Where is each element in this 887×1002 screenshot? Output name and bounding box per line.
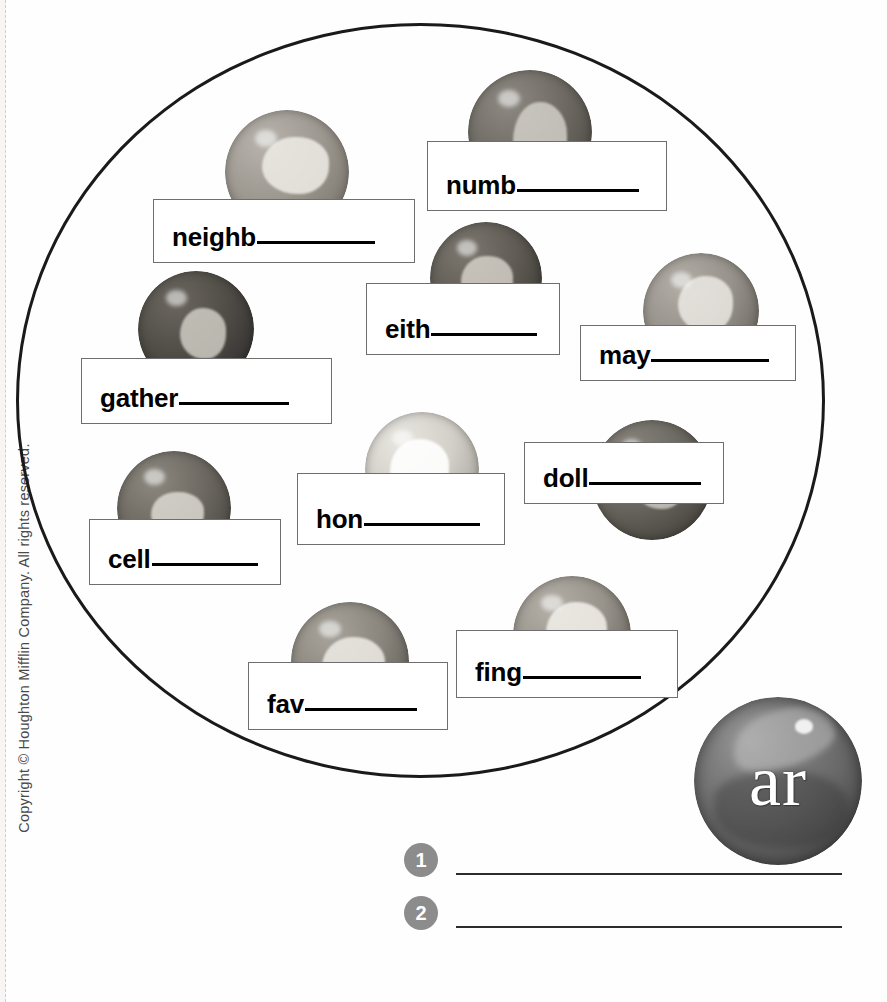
word-box-inner: cell [90,544,258,584]
word-box-cell[interactable]: cell [89,519,281,585]
answer-write-line[interactable] [456,926,842,928]
word-blank-line[interactable] [589,482,701,485]
word-box-hon[interactable]: hon [297,473,505,545]
word-stem: cell [108,544,151,575]
answer-write-line[interactable] [456,873,842,875]
word-blank-line[interactable] [152,563,258,566]
word-box-fav[interactable]: fav [248,662,448,730]
answer-number-badge: 2 [404,896,438,930]
word-box-doll[interactable]: doll [524,442,724,504]
word-box-inner: doll [525,463,701,503]
word-blank-line[interactable] [257,241,375,244]
word-box-inner: fing [457,657,641,697]
answer-row-1: 1 [404,843,842,877]
word-stem: gather [100,383,178,414]
word-box-inner: neighb [154,222,375,262]
word-box-neighb[interactable]: neighb [153,199,415,263]
word-stem: hon [316,504,363,535]
key-marble-label: ar [749,745,807,817]
word-blank-line[interactable] [179,402,289,405]
answer-number-badge: 1 [404,843,438,877]
word-blank-line[interactable] [305,708,417,711]
word-stem: doll [543,463,588,494]
word-box-inner: eith [367,314,537,354]
word-stem: numb [446,170,516,201]
word-box-inner: may [581,340,769,380]
word-box-inner: numb [428,170,639,210]
worksheet-page: Copyright © Houghton Mifflin Company. Al… [0,0,887,1002]
word-blank-line[interactable] [431,333,537,336]
key-marble-ar: ar [694,697,862,865]
word-box-may[interactable]: may [580,325,796,381]
word-stem: eith [385,314,430,345]
word-blank-line[interactable] [651,359,769,362]
word-box-fing[interactable]: fing [456,630,678,698]
word-stem: neighb [172,222,256,253]
word-box-eith[interactable]: eith [366,283,560,355]
word-stem: may [599,340,650,371]
word-box-inner: hon [298,504,480,544]
word-blank-line[interactable] [523,676,641,679]
word-box-inner: gather [82,383,289,423]
word-box-inner: fav [249,689,417,729]
word-blank-line[interactable] [364,523,480,526]
word-stem: fav [267,689,304,720]
perforation-line [5,0,6,1002]
word-box-numb[interactable]: numb [427,141,667,211]
answer-row-2: 2 [404,896,842,930]
word-stem: fing [475,657,522,688]
word-box-gather[interactable]: gather [81,358,332,424]
word-blank-line[interactable] [517,189,639,192]
